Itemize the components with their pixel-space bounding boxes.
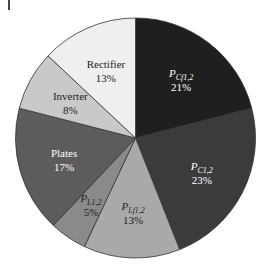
slice-percent: 17% [54, 161, 74, 173]
slice-percent: 13% [96, 72, 116, 84]
slice-label: Rectifier [87, 58, 126, 70]
slice-percent: 8% [63, 104, 78, 116]
slice-label: Inverter [53, 90, 88, 102]
pie-chart: PCf1,221%PC1,223%PLf1,213%PL1,25%Plates1… [0, 0, 270, 276]
slice-label: Plates [51, 147, 77, 159]
slice-percent: 23% [192, 174, 212, 186]
slice-percent: 5% [84, 206, 99, 218]
slice-percent: 21% [171, 81, 191, 93]
slice-percent: 13% [123, 214, 143, 226]
